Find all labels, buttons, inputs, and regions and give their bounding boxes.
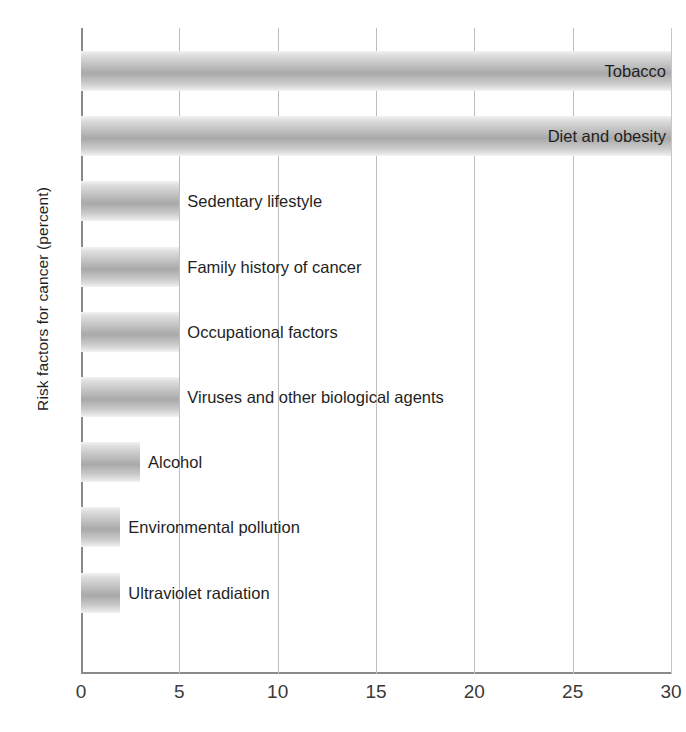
bar-label: Alcohol: [148, 442, 202, 482]
gridline-30: [671, 28, 672, 674]
bar-label: Viruses and other biological agents: [187, 377, 444, 417]
bar-label: Ultraviolet radiation: [128, 573, 269, 613]
bar-row: Tobacco: [81, 51, 671, 91]
x-tick-label-25: 25: [543, 681, 603, 703]
x-tick-label-20: 20: [444, 681, 504, 703]
x-tick-label-30: 30: [641, 681, 686, 703]
bar-row: Viruses and other biological agents: [81, 377, 671, 417]
bar-row: Alcohol: [81, 442, 671, 482]
x-tick-label-0: 0: [51, 681, 111, 703]
bar-label: Environmental pollution: [128, 507, 300, 547]
bar[interactable]: [81, 181, 179, 221]
bar-row: Occupational factors: [81, 312, 671, 352]
bar-label: Sedentary lifestyle: [187, 181, 322, 221]
y-axis-title: Risk factors for cancer (percent): [34, 149, 52, 449]
bar[interactable]: [81, 312, 179, 352]
bar-label: Family history of cancer: [187, 247, 361, 287]
x-tick-label-10: 10: [248, 681, 308, 703]
x-tick-label-5: 5: [149, 681, 209, 703]
bar[interactable]: [81, 442, 140, 482]
bar-row: Environmental pollution: [81, 507, 671, 547]
bar-label: Tobacco: [605, 51, 666, 91]
bar[interactable]: [81, 377, 179, 417]
bar[interactable]: [81, 507, 120, 547]
bar-label: Diet and obesity: [548, 116, 666, 156]
bar[interactable]: [81, 51, 671, 91]
bar-row: Ultraviolet radiation: [81, 573, 671, 613]
bar-row: Diet and obesity: [81, 116, 671, 156]
bar-row: Family history of cancer: [81, 247, 671, 287]
plot-area: TobaccoDiet and obesitySedentary lifesty…: [81, 28, 671, 674]
bar-label: Occupational factors: [187, 312, 337, 352]
bar[interactable]: [81, 573, 120, 613]
bar-chart: Risk factors for cancer (percent) Tobacc…: [0, 0, 686, 732]
x-tick-label-15: 15: [346, 681, 406, 703]
bar-row: Sedentary lifestyle: [81, 181, 671, 221]
bar[interactable]: [81, 247, 179, 287]
